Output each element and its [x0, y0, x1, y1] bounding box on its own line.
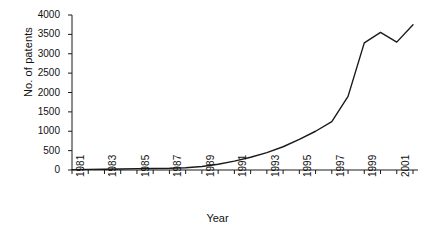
- x-axis-tick-label: 2001: [401, 155, 411, 177]
- x-axis-tick-label: 1993: [271, 155, 281, 177]
- x-axis-tick-labels: 1981198319851987198919911993199519971999…: [0, 0, 435, 231]
- x-axis-tick-label: 1987: [173, 155, 183, 177]
- x-axis-tick-label: 1995: [303, 155, 313, 177]
- x-axis-tick-label: 1981: [76, 155, 86, 177]
- x-axis-title: Year: [0, 212, 435, 224]
- patents-line-chart: No. of patents 0500100015002000250030003…: [0, 0, 435, 231]
- x-axis-tick-label: 1997: [336, 155, 346, 177]
- x-axis-tick-label: 1983: [108, 155, 118, 177]
- x-axis-tick-label: 1999: [368, 155, 378, 177]
- x-axis-tick-label: 1989: [206, 155, 216, 177]
- x-axis-tick-label: 1985: [141, 155, 151, 177]
- x-axis-tick-label: 1991: [238, 155, 248, 177]
